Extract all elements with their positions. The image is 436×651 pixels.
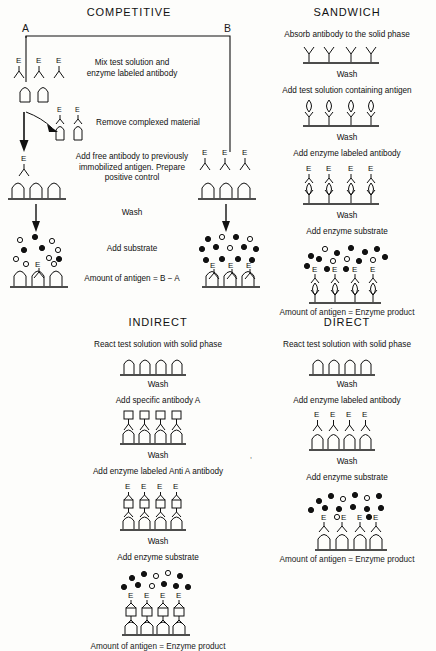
svg-text:E: E (348, 164, 353, 173)
free-antibody-a: E (16, 152, 56, 180)
step-react-test-solution-direct: React test solution with solid phase (258, 340, 436, 351)
column-label-a: A (22, 22, 29, 34)
svg-text:E: E (326, 164, 331, 173)
svg-text:E: E (36, 56, 41, 65)
panel-direct: DIRECT React test solution with solid ph… (258, 316, 436, 564)
direct-product-row: E E E E (297, 487, 397, 553)
column-label-b: B (224, 22, 231, 34)
panel-title-competitive: COMPETITIVE (0, 6, 258, 18)
step-remove-complexed: Remove complexed material (96, 118, 256, 129)
step-wash-competitive: Wash (62, 208, 202, 217)
svg-text:E: E (125, 482, 130, 491)
svg-text:E: E (314, 410, 319, 419)
step-add-enzyme-substrate-indirect: Add enzyme substrate (58, 553, 258, 564)
step-add-specific-antibody-a: Add specific antibody A (58, 396, 258, 407)
svg-text:E: E (321, 513, 326, 522)
svg-text:E: E (368, 164, 373, 173)
svg-text:E: E (157, 482, 162, 491)
svg-text:E: E (357, 513, 362, 522)
step-add-enzyme-labeled-anti-a: Add enzyme labeled Anti A antibody (58, 467, 258, 478)
result-indirect: Amount of antigen = Enzyme product (58, 642, 258, 651)
step-wash-indirect-1: Wash (58, 380, 258, 389)
svg-text:E: E (21, 154, 26, 163)
svg-text:E: E (16, 56, 21, 65)
antibody-a-bound-row (118, 409, 198, 449)
svg-text:E: E (346, 410, 351, 419)
antibody-row-sandwich (301, 44, 393, 68)
direct-complex-row: E E E E (307, 409, 387, 455)
indirect-complex-row: E E E E (118, 481, 198, 535)
svg-text:E: E (35, 260, 40, 269)
svg-text:E: E (222, 148, 227, 157)
step-mix-test-solution: Mix test solution and enzyme labeled ant… (62, 58, 202, 79)
svg-text:E: E (141, 482, 146, 491)
step-add-free-antibody: Add free antibody to previously immobili… (62, 152, 202, 184)
svg-text:E: E (362, 410, 367, 419)
svg-text:E: E (176, 591, 181, 600)
svg-text:E: E (306, 164, 311, 173)
step-wash-direct-2: Wash (258, 457, 436, 466)
svg-text:E: E (173, 482, 178, 491)
svg-text:E: E (370, 265, 375, 274)
svg-text:E: E (246, 261, 251, 270)
panel-competitive: COMPETITIVE A B E E E (0, 6, 258, 298)
panel-title-indirect: INDIRECT (58, 316, 258, 328)
result-competitive: Amount of antigen = B − A (62, 274, 202, 285)
svg-text:E: E (160, 591, 165, 600)
svg-text:E: E (242, 148, 247, 157)
svg-text:E: E (75, 106, 80, 113)
step-add-enzyme-substrate-direct: Add enzyme substrate (258, 473, 436, 484)
svg-text:E: E (312, 265, 317, 274)
step-add-enzyme-substrate-sandwich: Add enzyme substrate (258, 227, 436, 238)
svg-text:E: E (210, 261, 215, 270)
sandwich-complex-row: E E E E (301, 163, 393, 209)
step-wash-direct-1: Wash (258, 380, 436, 389)
panel-title-sandwich: SANDWICH (258, 6, 436, 18)
step-add-enzyme-labeled-antibody-direct: Add enzyme labeled antibody (258, 396, 436, 407)
step-wash-indirect-2: Wash (58, 451, 258, 460)
antigen-bound-row-sandwich (301, 99, 393, 131)
step-wash-sandwich-1: Wash (258, 70, 436, 79)
step-wash-sandwich-2: Wash (258, 133, 436, 142)
antigen-row-indirect (118, 354, 198, 378)
svg-text:E: E (56, 56, 61, 65)
svg-text:E: E (57, 106, 62, 113)
svg-text:E: E (202, 148, 207, 157)
svg-text:E: E (341, 513, 346, 522)
indirect-product-row: E E E E (112, 566, 204, 640)
svg-text:E: E (373, 513, 378, 522)
panel-title-direct: DIRECT (258, 316, 436, 328)
complexed-material-removed: E E (52, 104, 98, 146)
svg-text:E: E (330, 410, 335, 419)
step-absorb-antibody: Absorb antibody to the solid phase (258, 30, 436, 41)
panel-sandwich: SANDWICH Absorb antibody to the solid ph… (258, 6, 436, 317)
svg-text:E: E (352, 265, 357, 274)
step-add-substrate: Add substrate (62, 244, 202, 255)
step-wash-sandwich-3: Wash (258, 211, 436, 220)
panel-indirect: INDIRECT React test solution with solid … (58, 316, 258, 651)
svg-text:E: E (332, 265, 337, 274)
step-wash-indirect-3: Wash (58, 537, 258, 546)
svg-text:E: E (128, 591, 133, 600)
step-react-test-solution-indirect: React test solution with solid phase (58, 340, 258, 351)
svg-text:E: E (228, 261, 233, 270)
stray-mark: , (250, 452, 252, 459)
svg-text:E: E (144, 591, 149, 600)
step-add-test-solution-antigen: Add test solution containing antigen (258, 86, 436, 97)
antigen-row-direct (307, 354, 387, 378)
sandwich-product-row: E E E E (297, 240, 397, 306)
step-add-enzyme-labeled-antibody-sandwich: Add enzyme labeled antibody (258, 149, 436, 160)
result-direct: Amount of antigen = Enzyme product (258, 555, 436, 564)
